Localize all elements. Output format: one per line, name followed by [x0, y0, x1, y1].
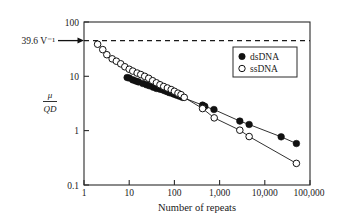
arrow-head-icon [78, 38, 85, 44]
data-point-dsDNA [211, 106, 218, 113]
data-point-ssDNA [211, 115, 218, 122]
figure-container: 100 10 1 0.1 1 10 100 1,000 10,000 100,0… [0, 0, 340, 223]
chart-canvas: 100 10 1 0.1 1 10 100 1,000 10,000 100,0… [0, 0, 340, 223]
legend-label-dsDNA: dsDNA [250, 52, 279, 62]
data-point-ssDNA [237, 127, 244, 134]
y-axis-denominator: QD [44, 104, 57, 114]
data-point-ssDNA [181, 94, 188, 101]
y-axis-numerator: μ [47, 90, 53, 100]
x-tick-label-100000: 100,000 [294, 188, 325, 198]
y-tick-label-0.1: 0.1 [67, 181, 79, 191]
x-tick-label-10000: 10,000 [252, 188, 278, 198]
legend-marker-dsDNA [239, 53, 245, 59]
plot-frame [84, 22, 310, 185]
x-tick-label-1000: 1,000 [209, 188, 231, 198]
data-point-dsDNA [278, 134, 285, 141]
y-tick-label-100: 100 [65, 18, 80, 28]
threshold-label: 39.6 V⁻¹ [21, 36, 55, 46]
legend-marker-ssDNA [239, 65, 245, 71]
legend-label-ssDNA: ssDNA [250, 64, 278, 74]
data-point-dsDNA [293, 140, 300, 147]
data-point-dsDNA [237, 118, 244, 125]
y-axis-title: μ QD [43, 90, 57, 114]
x-tick-label-1: 1 [82, 188, 87, 198]
x-tick-label-100: 100 [167, 188, 182, 198]
y-tick-label-10: 10 [70, 72, 80, 82]
x-axis-title-text: Number of repeats [158, 202, 236, 213]
data-point-ssDNA [199, 105, 206, 112]
series-dsDNA [124, 74, 300, 147]
threshold-annotation: 39.6 V⁻¹ [21, 36, 310, 46]
data-point-ssDNA [246, 133, 253, 140]
y-tick-label-1: 1 [74, 126, 79, 136]
data-point-ssDNA [94, 41, 101, 48]
data-point-ssDNA [293, 160, 300, 167]
x-axis-title: Number of repeats [158, 202, 236, 213]
y-axis-ticks: 100 10 1 0.1 [65, 18, 89, 191]
data-point-dsDNA [246, 121, 253, 128]
x-tick-label-10: 10 [124, 188, 134, 198]
x-axis-ticks: 1 10 100 1,000 10,000 100,000 [82, 180, 325, 198]
legend: dsDNA ssDNA [233, 47, 297, 77]
